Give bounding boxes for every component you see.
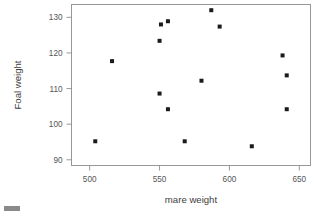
x-tick-label: 550	[153, 175, 167, 184]
data-point	[218, 25, 222, 29]
y-tick-label: 100	[49, 120, 63, 129]
data-point	[285, 73, 289, 77]
data-point	[209, 8, 213, 12]
x-tick-label: 650	[292, 175, 306, 184]
data-point	[159, 22, 163, 26]
x-axis-tick-labels: 500550600650	[83, 175, 307, 184]
x-axis-ticks	[90, 166, 300, 171]
y-tick-label: 120	[49, 49, 63, 58]
data-point	[93, 139, 97, 143]
y-axis-ticks	[67, 17, 72, 159]
x-tick-label: 500	[83, 175, 97, 184]
y-tick-label: 110	[49, 85, 62, 94]
y-tick-label: 130	[49, 13, 63, 22]
y-tick-label: 90	[53, 156, 63, 165]
data-point	[166, 107, 170, 111]
data-point	[110, 59, 114, 63]
data-point	[158, 92, 162, 96]
x-axis-title: mare weight	[165, 194, 218, 205]
data-point	[285, 107, 289, 111]
y-axis-title: Foal weight	[12, 60, 23, 109]
data-point	[250, 144, 254, 148]
data-point	[199, 79, 203, 83]
data-point-group	[93, 8, 288, 148]
data-point	[183, 139, 187, 143]
y-axis-tick-labels: 90100110120130	[49, 13, 63, 164]
scatter-chart: 500550600650 90100110120130 mare weight …	[0, 0, 335, 219]
data-point	[166, 19, 170, 23]
data-point	[281, 53, 285, 57]
x-tick-label: 600	[223, 175, 237, 184]
plot-frame	[72, 5, 311, 166]
corner-artifact-mark	[4, 206, 20, 211]
plot-canvas: 500550600650 90100110120130 mare weight …	[0, 0, 335, 219]
data-point	[158, 39, 162, 43]
